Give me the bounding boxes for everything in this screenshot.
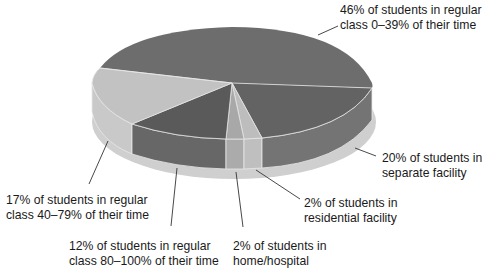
label-regular-40-79: 17% of students in regular class 40–79% … <box>6 193 149 223</box>
leader-line-regular-80-100 <box>171 168 177 226</box>
leader-line-home-hospital <box>236 172 243 227</box>
leader-line-regular-40-79 <box>89 141 108 184</box>
pie-chart-3d <box>0 0 482 275</box>
label-separate: 20% of students in separate facility <box>382 151 482 181</box>
label-residential: 2% of students in residential facility <box>304 196 398 226</box>
leader-line-regular-0-39 <box>318 26 338 35</box>
label-home-hospital: 2% of students in home/hospital <box>233 239 327 269</box>
slice-side-residential <box>244 138 262 169</box>
label-regular-80-100: 12% of students in regular class 80–100%… <box>69 239 219 269</box>
label-regular-0-39: 46% of students in regular class 0–39% o… <box>340 3 482 33</box>
slice-side-home-hospital <box>226 139 244 169</box>
leader-line-separate <box>355 148 376 156</box>
